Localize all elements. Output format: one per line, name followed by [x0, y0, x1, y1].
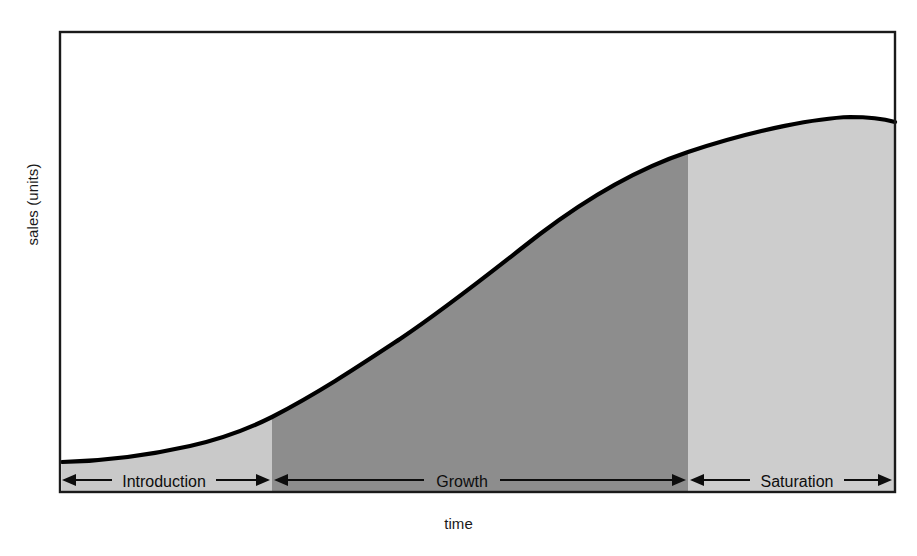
product-life-cycle-chart: Introduction Growth Saturation sales (un… — [0, 0, 917, 556]
y-axis-label: sales (units) — [24, 140, 41, 270]
chart-canvas: Introduction Growth Saturation — [0, 0, 917, 556]
stage-label-saturation: Saturation — [761, 473, 834, 490]
stage-label-growth: Growth — [436, 473, 488, 490]
x-axis-label: time — [0, 515, 917, 532]
stage-label-introduction: Introduction — [122, 473, 206, 490]
